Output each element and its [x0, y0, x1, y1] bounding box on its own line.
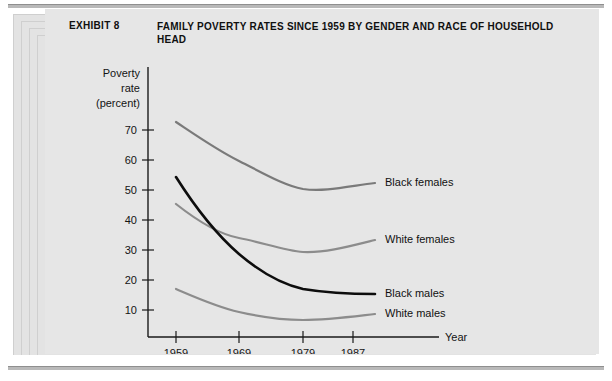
chart-area: Poverty rate (percent) 70 60 50 40 30 — [45, 49, 599, 354]
x-tick-label-1987: 1987 — [341, 347, 365, 354]
series-label-black-males: Black males — [385, 287, 445, 299]
x-tick-label-1969: 1969 — [227, 347, 251, 354]
y-tick-label-70: 70 — [125, 124, 137, 136]
series-line-white-females — [176, 204, 375, 252]
y-tick-label-20: 20 — [125, 274, 137, 286]
bottom-rule — [8, 366, 604, 370]
y-axis-title-line-2: rate — [121, 82, 140, 94]
y-axis-title-line-1: Poverty — [103, 67, 141, 79]
y-axis-ticks: 70 60 50 40 30 20 10 — [125, 124, 154, 316]
series-label-white-males: White males — [385, 307, 446, 319]
series-label-white-females: White females — [385, 233, 455, 245]
exhibit-number: EXHIBIT 8 — [69, 20, 120, 31]
y-axis-title-line-3: (percent) — [96, 97, 140, 109]
y-tick-label-10: 10 — [125, 304, 137, 316]
x-tick-label-1979: 1979 — [291, 347, 315, 354]
series-label-black-females: Black females — [385, 176, 454, 188]
y-tick-label-60: 60 — [125, 154, 137, 166]
series-line-black-females — [176, 122, 375, 190]
exhibit-card: EXHIBIT 8 FAMILY POVERTY RATES SINCE 195… — [45, 9, 599, 354]
y-tick-label-50: 50 — [125, 184, 137, 196]
x-axis-title: Year — [445, 331, 468, 343]
top-rule — [8, 4, 604, 8]
x-tick-label-1959: 1959 — [164, 347, 188, 354]
series-line-black-males — [176, 177, 375, 294]
x-axis-ticks: 1959 1969 1979 1987 — [164, 331, 365, 354]
page-canvas: EXHIBIT 8 FAMILY POVERTY RATES SINCE 195… — [0, 0, 612, 381]
poverty-rate-line-chart: Poverty rate (percent) 70 60 50 40 30 — [45, 49, 599, 354]
exhibit-title: FAMILY POVERTY RATES SINCE 1959 BY GENDE… — [157, 20, 567, 46]
y-tick-label-40: 40 — [125, 214, 137, 226]
y-tick-label-30: 30 — [125, 244, 137, 256]
